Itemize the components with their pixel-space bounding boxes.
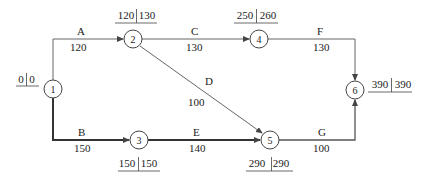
node-3-earliest: 150	[119, 157, 136, 169]
node-6-label: 6	[353, 85, 358, 96]
node-2: 2 120 130	[115, 9, 157, 48]
node-2-label: 2	[131, 34, 136, 45]
activity-g: G 100	[279, 100, 355, 154]
node-2-latest: 130	[139, 9, 156, 21]
node-1-earliest: 0	[18, 73, 24, 85]
node-5: 5 290 290	[246, 131, 293, 171]
node-5-earliest: 290	[249, 157, 266, 169]
activity-a-name: A	[77, 25, 85, 37]
node-1-label: 1	[51, 84, 56, 95]
activity-a-duration: 120	[70, 41, 87, 53]
node-1: 1 0 0	[16, 73, 62, 98]
activity-d-duration: 100	[188, 96, 205, 108]
node-4-earliest: 250	[237, 9, 254, 21]
activity-c-name: C	[191, 25, 198, 37]
node-3-label: 3	[137, 135, 142, 146]
node-4-label: 4	[257, 34, 262, 45]
network-diagram: A 120 B 150 C 130 D 100 E 140 F 130 G 10…	[0, 0, 424, 176]
node-5-label: 5	[268, 135, 273, 146]
activity-b: B 150	[53, 98, 129, 154]
activity-c: C 130	[142, 25, 249, 53]
activity-c-duration: 130	[186, 41, 203, 53]
node-1-latest: 0	[29, 73, 35, 85]
node-6: 6 390 390	[346, 78, 412, 99]
activity-f-duration: 130	[313, 41, 330, 53]
activity-b-name: B	[78, 126, 85, 138]
node-3: 3 150 150	[118, 131, 160, 171]
node-3-latest: 150	[141, 157, 158, 169]
activity-b-duration: 150	[74, 142, 91, 154]
activity-e: E 140	[148, 126, 260, 154]
node-6-latest: 390	[395, 78, 412, 90]
activity-d-name: D	[205, 75, 213, 87]
node-4-latest: 260	[260, 9, 277, 21]
activity-a: A 120	[53, 25, 123, 80]
activity-f-name: F	[317, 25, 323, 37]
activity-e-duration: 140	[189, 142, 206, 154]
activity-g-duration: 100	[313, 142, 330, 154]
activity-f: F 130	[268, 25, 355, 80]
activity-d: D 100	[140, 46, 262, 133]
node-4: 4 250 260	[234, 9, 278, 48]
activity-g-name: G	[318, 126, 326, 138]
node-2-earliest: 120	[118, 9, 135, 21]
node-5-latest: 290	[273, 157, 290, 169]
node-6-earliest: 390	[372, 78, 389, 90]
activity-e-name: E	[193, 126, 200, 138]
